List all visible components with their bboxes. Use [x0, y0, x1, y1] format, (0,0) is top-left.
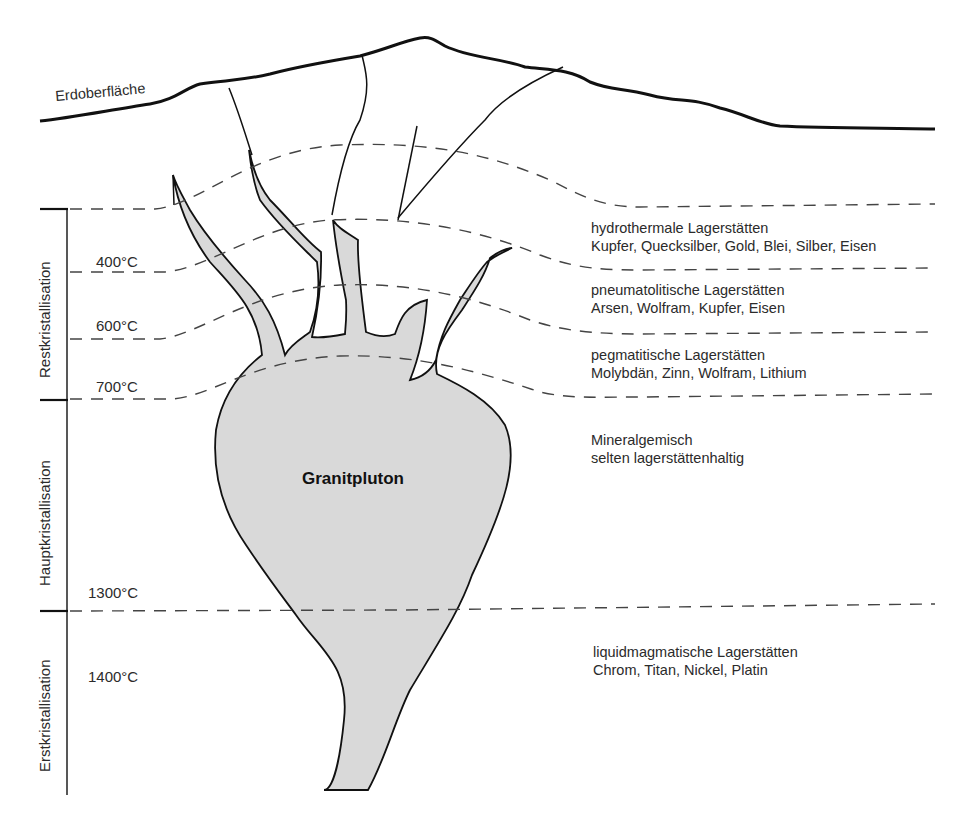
fissure-center: [332, 55, 367, 215]
zone-name: liquidmagmatische Lagerstätten: [593, 643, 798, 661]
zone-pneumatolytic: pneumatolitische Lagerstätten Arsen, Wol…: [591, 281, 785, 317]
isotherm-600: [70, 285, 935, 339]
zone-hydrothermal: hydrothermale Lagerstätten Kupfer, Queck…: [591, 219, 876, 255]
zone-minerals: Kupfer, Quecksilber, Gold, Blei, Silber,…: [591, 237, 876, 255]
earth-surface-line: [40, 37, 935, 129]
temp-label-600: 600°C: [96, 317, 138, 334]
temp-label-700: 700°C: [96, 378, 138, 395]
vein-left-outline: [173, 175, 174, 205]
zone-name: hydrothermale Lagerstätten: [591, 219, 876, 237]
zone-mineral-mixture: Mineralgemisch selten lagerstättenhaltig: [591, 431, 744, 467]
zone-minerals: Chrom, Titan, Nickel, Platin: [593, 661, 798, 679]
pluton-label: Granitpluton: [302, 469, 404, 489]
temp-label-400: 400°C: [96, 253, 138, 270]
phase-label-rest: Restkristallisation: [36, 261, 53, 378]
zone-name: Mineralgemisch: [591, 431, 744, 449]
cross-section-drawing: [0, 0, 971, 830]
zone-name: pegmatitische Lagerstätten: [591, 346, 807, 364]
phase-label-erst: Erstkristallisation: [36, 659, 53, 772]
temp-label-1300: 1300°C: [88, 584, 138, 601]
fissure-right: [398, 67, 563, 218]
isotherm-top: [70, 144, 935, 209]
zone-liquid-magmatic: liquidmagmatische Lagerstätten Chrom, Ti…: [593, 643, 798, 679]
phase-label-haupt: Hauptkristallisation: [36, 460, 53, 586]
zone-pegmatitic: pegmatitische Lagerstätten Molybdän, Zin…: [591, 346, 807, 382]
zone-name: pneumatolitische Lagerstätten: [591, 281, 785, 299]
zone-minerals: Arsen, Wolfram, Kupfer, Eisen: [591, 299, 785, 317]
fissure-left: [229, 88, 252, 155]
temp-label-1400: 1400°C: [88, 668, 138, 685]
isotherm-1300: [70, 604, 935, 611]
zone-minerals: selten lagerstättenhaltig: [591, 449, 744, 467]
zone-minerals: Molybdän, Zinn, Wolfram, Lithium: [591, 364, 807, 382]
